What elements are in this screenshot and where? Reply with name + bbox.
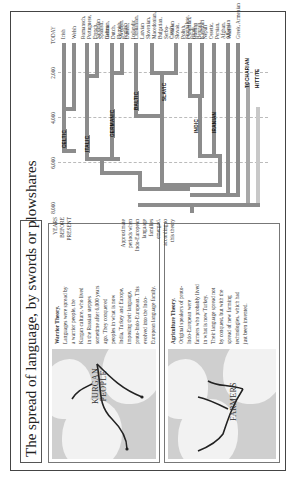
lang-lithuanian: Lithuanian, Latvian: [133, 11, 145, 39]
tick-2000: 2,000: [50, 67, 56, 79]
page-title: The spread of language, by swords or plo…: [20, 220, 42, 463]
approximate-periods-note: Approximate periods when Indo-European l…: [120, 219, 176, 255]
tick-4000: 4,000: [50, 112, 56, 124]
years-before-present-label: YEARS BEFORE PRESENT: [52, 217, 73, 247]
branch-baltic: BALTIC: [134, 91, 139, 111]
agriculture-theory-text: Agriculture Theory. Original speakers of…: [169, 284, 249, 344]
migration-arrows-icon: [52, 349, 156, 459]
migration-arrows-icon: [168, 349, 276, 459]
warrior-theory-text: Warrior Theory. Languages were spread by…: [53, 284, 157, 344]
kurgan-label: KURGAN PEOPLE: [92, 368, 108, 404]
tick-6000: 6,000: [50, 157, 56, 169]
agriculture-theory-panel: FARMERS Agriculture Theory. Original spe…: [164, 223, 280, 463]
branch-slavic: SLAVIC: [162, 83, 167, 101]
farmers-label: FARMERS: [230, 382, 238, 421]
branch-germanic: GERMANIC: [110, 109, 115, 138]
lang-kashmiri: Kashmiri: [199, 20, 205, 39]
tick-8000: 8,000: [50, 202, 56, 214]
branch-tocharian: TOCHARIAN: [245, 58, 250, 88]
branch-indic: INDIC: [194, 119, 199, 133]
warrior-map: KURGAN PEOPLE: [52, 349, 156, 459]
branch-hittite: HITTITE: [255, 69, 260, 88]
lang-sardinian: Sardinian: [95, 19, 101, 39]
branch-iranian: IRANIAN: [212, 112, 217, 133]
branch-celtic: CELTIC: [62, 129, 67, 149]
lang-albanian: Albanian: [225, 20, 231, 39]
tick-today: TODAY: [50, 26, 56, 44]
branch-italic: ITALIC: [85, 135, 90, 153]
warrior-theory-panel: KURGAN PEOPLE Warrior Theory. Languages …: [48, 223, 160, 463]
lang-greek: Greek, Armenian: [235, 3, 241, 39]
lang-welsh: Welsh: [71, 26, 77, 39]
document-page: The spread of language, by swords or plo…: [0, 0, 300, 483]
farmers-map: FARMERS: [168, 349, 276, 459]
lang-irish: Irish: [60, 29, 66, 39]
